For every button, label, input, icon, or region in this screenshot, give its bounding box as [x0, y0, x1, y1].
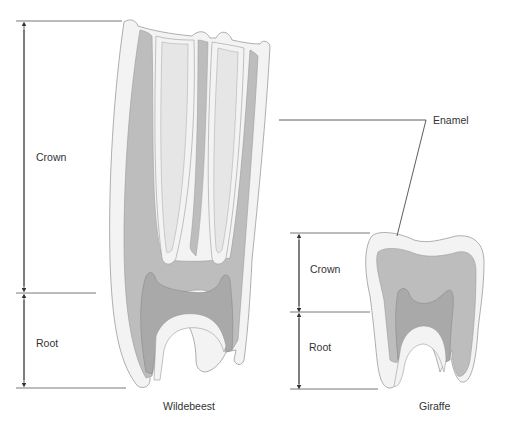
giraffe-tooth [366, 233, 484, 388]
giraffe-root-label: Root [309, 341, 331, 353]
tooth-diagram: Crown Root Wildebeest Crown Root Giraffe… [0, 0, 529, 426]
giraffe-crown-label: Crown [310, 263, 341, 275]
enamel-callout-leader [279, 120, 426, 236]
wildebeest-root-label: Root [36, 337, 58, 349]
giraffe-dimensions [290, 233, 378, 389]
wildebeest-crown-label: Crown [36, 151, 67, 163]
enamel-callout-label: Enamel [433, 114, 469, 126]
giraffe-caption: Giraffe [419, 400, 450, 412]
wildebeest-tooth [110, 20, 270, 388]
wildebeest-caption: Wildebeest [163, 400, 215, 412]
